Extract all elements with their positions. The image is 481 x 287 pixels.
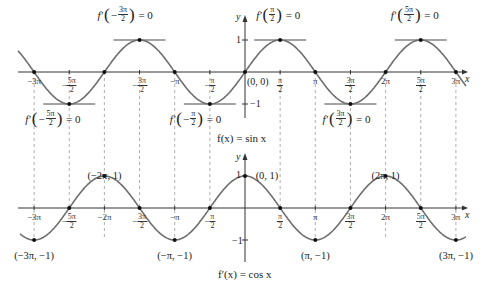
top-y-axis-label: y — [236, 12, 240, 22]
derivative-annotation: f′(−3π2) = 0 — [98, 6, 153, 23]
x-tick-label: −5π2 — [62, 213, 77, 230]
point-label: (3π, −1) — [439, 250, 473, 261]
x-tick-label: −5π2 — [62, 77, 77, 94]
x-tick-label: −π — [170, 213, 180, 222]
top-x-axis-label: x — [465, 74, 469, 84]
x-tick-label: −2π — [97, 213, 111, 222]
bottom-y-tick-1: 1 — [236, 170, 241, 180]
derivative-annotation: f′(−π2) = 0 — [170, 110, 221, 127]
x-tick-label: π2 — [277, 213, 283, 230]
top-function-label: f(x) = sin x — [217, 132, 266, 144]
point-label: (−π, −1) — [157, 250, 192, 261]
point-label: (−2π, 1) — [87, 170, 121, 181]
derivative-annotation: f′(π2) = 0 — [256, 6, 300, 23]
point-label: (0, 1) — [256, 170, 279, 181]
bottom-function-label: f′(x) = cos x — [218, 268, 272, 280]
point-label: (−3π, −1) — [14, 250, 54, 261]
x-tick-label: π — [313, 213, 318, 222]
x-tick-label: −3π — [27, 213, 41, 222]
x-tick-label: 3π2 — [345, 77, 355, 94]
x-tick-label: 5π2 — [416, 213, 426, 230]
x-tick-label: π2 — [277, 77, 283, 94]
bottom-y-axis-label: y — [236, 152, 240, 162]
x-tick-label: 3π — [451, 77, 460, 86]
derivative-annotation: f′(5π2) = 0 — [391, 6, 439, 23]
x-tick-label: −π2 — [204, 77, 215, 94]
x-tick-label: −π2 — [204, 213, 215, 230]
x-tick-label: 2π — [381, 213, 390, 222]
derivative-annotation: f′(−5π2) = 0 — [25, 110, 80, 127]
x-tick-label: 3π2 — [345, 213, 355, 230]
point-label: (2π, 1) — [372, 170, 400, 181]
bottom-y-tick-neg1: −1 — [232, 236, 243, 246]
x-tick-label: 3π — [451, 213, 460, 222]
x-tick-label: −3π — [27, 77, 41, 86]
x-tick-label: −3π2 — [132, 213, 147, 230]
x-tick-label: −π — [170, 77, 180, 86]
x-tick-label: π — [313, 77, 318, 86]
x-tick-label: 2π — [381, 77, 390, 86]
x-tick-label: 5π2 — [416, 77, 426, 94]
top-y-tick-1: 1 — [236, 35, 241, 45]
bottom-x-axis-label: x — [465, 210, 469, 220]
point-label: (π, −1) — [301, 250, 330, 261]
derivative-annotation: f′(3π2) = 0 — [322, 110, 370, 127]
top-y-tick-neg1: −1 — [250, 99, 261, 109]
origin-label: (0, 0) — [247, 77, 269, 87]
x-tick-label: −3π2 — [132, 77, 147, 94]
